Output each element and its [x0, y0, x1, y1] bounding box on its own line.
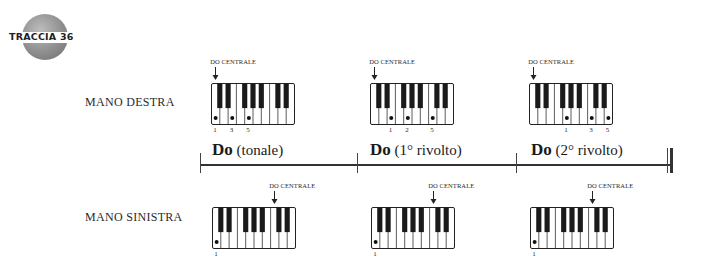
- left-hand-keyboard-2: [371, 207, 454, 248]
- finger-number: 3: [230, 126, 234, 134]
- chord-label-second-inversion: Do (2° rivolto): [531, 140, 623, 160]
- staff-line: [200, 164, 672, 166]
- chord-name: Do: [531, 140, 552, 159]
- final-bar-thin: [667, 148, 668, 173]
- finger-number: 1: [373, 250, 377, 258]
- right-hand-keyboard-2: [370, 83, 453, 124]
- bar-line-start: [200, 153, 201, 173]
- finger-number: 1: [213, 126, 217, 134]
- middle-c-label: DO CENTRALE: [428, 182, 474, 189]
- chord-qualifier: (1° rivolto): [395, 142, 462, 158]
- finger-number: 5: [430, 126, 434, 134]
- chord-qualifier: (2° rivolto): [556, 142, 623, 158]
- finger-number: 1: [532, 250, 536, 258]
- chord-name: Do: [370, 140, 391, 159]
- chord-name: Do: [212, 140, 233, 159]
- left-hand-keyboard-3: [530, 207, 613, 248]
- down-arrow-icon: [271, 191, 278, 209]
- down-arrow-icon: [430, 191, 437, 209]
- middle-c-label: DO CENTRALE: [528, 58, 574, 65]
- left-hand-keyboard-1: [212, 207, 295, 248]
- finger-number: 5: [246, 126, 250, 134]
- middle-c-label: DO CENTRALE: [210, 58, 256, 65]
- down-arrow-icon: [530, 67, 537, 85]
- finger-number: 1: [564, 126, 568, 134]
- chord-label-tonale: Do (tonale): [212, 140, 283, 160]
- chord-label-first-inversion: Do (1° rivolto): [370, 140, 462, 160]
- middle-c-label: DO CENTRALE: [369, 58, 415, 65]
- middle-c-label: DO CENTRALE: [587, 182, 633, 189]
- middle-c-label: DO CENTRALE: [269, 182, 315, 189]
- track-badge-label: TRACCIA 36: [9, 31, 77, 42]
- left-hand-label: MANO SINISTRA: [85, 210, 183, 225]
- down-arrow-icon: [212, 67, 219, 85]
- bar-line-2: [516, 153, 517, 173]
- finger-number: 5: [606, 126, 610, 134]
- finger-number: 2: [405, 126, 409, 134]
- bar-line-1: [357, 153, 358, 173]
- finger-number: 1: [214, 250, 218, 258]
- right-hand-label: MANO DESTRA: [85, 95, 175, 110]
- right-hand-keyboard-1: [211, 83, 294, 124]
- right-hand-keyboard-3: [529, 83, 612, 124]
- chord-qualifier: (tonale): [237, 142, 284, 158]
- down-arrow-icon: [589, 191, 596, 209]
- finger-number: 3: [589, 126, 593, 134]
- final-bar-thick: [670, 148, 673, 173]
- down-arrow-icon: [371, 67, 378, 85]
- finger-number: 1: [389, 126, 393, 134]
